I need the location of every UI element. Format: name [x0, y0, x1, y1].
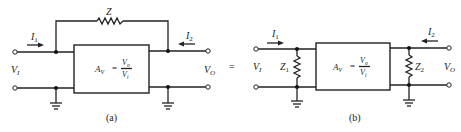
svg-text:=: =	[350, 61, 355, 71]
ground-icon	[50, 88, 62, 109]
output-terminal-top	[206, 49, 210, 53]
output-current-label: I2	[185, 30, 193, 43]
feedback-impedance-label: Z	[106, 6, 112, 17]
output-voltage-label: VO	[444, 61, 455, 74]
input-terminal-top	[254, 47, 258, 51]
feedback-impedance-resistor-icon	[97, 18, 123, 24]
caption-a: (a)	[106, 112, 117, 124]
figure-b: I1 I2 VI VO Z1 Z2 AV = Vo Vi (b)	[253, 26, 455, 124]
output-current-label: I2	[427, 26, 435, 39]
arrow-left-icon	[421, 39, 438, 44]
ground-icon	[403, 85, 415, 106]
output-terminal-bottom	[206, 85, 210, 89]
output-voltage-label: VO	[204, 64, 215, 77]
svg-text:=: =	[112, 63, 117, 73]
output-impedance-label: Z2	[415, 61, 425, 74]
caption-b: (b)	[349, 112, 361, 124]
ground-icon	[162, 87, 174, 109]
input-terminal-bottom	[13, 86, 17, 90]
equivalence-sign: =	[229, 61, 235, 72]
junction-dot	[407, 46, 411, 50]
input-terminal-top	[13, 50, 17, 54]
arrow-right-icon	[267, 41, 284, 46]
input-impedance-resistor-icon	[294, 56, 300, 78]
input-voltage-label: VI	[253, 61, 262, 74]
input-voltage-label: VI	[11, 64, 20, 77]
input-impedance-label: Z1	[280, 61, 290, 74]
input-current-label: I1	[271, 28, 279, 41]
output-terminal-top	[447, 46, 451, 50]
input-current-label: I1	[30, 31, 38, 44]
input-terminal-bottom	[254, 85, 258, 89]
junction-dot	[166, 49, 170, 53]
output-terminal-bottom	[447, 83, 451, 87]
ground-icon	[291, 87, 303, 107]
output-impedance-resistor-icon	[406, 55, 412, 77]
junction-dot	[295, 47, 299, 51]
junction-dot	[54, 50, 58, 54]
miller-equivalent-diagram: Z I1 I2 VI VO AV = Vo Vi (a) =	[0, 0, 461, 132]
figure-a: Z I1 I2 VI VO AV = Vo Vi (a)	[11, 6, 215, 124]
